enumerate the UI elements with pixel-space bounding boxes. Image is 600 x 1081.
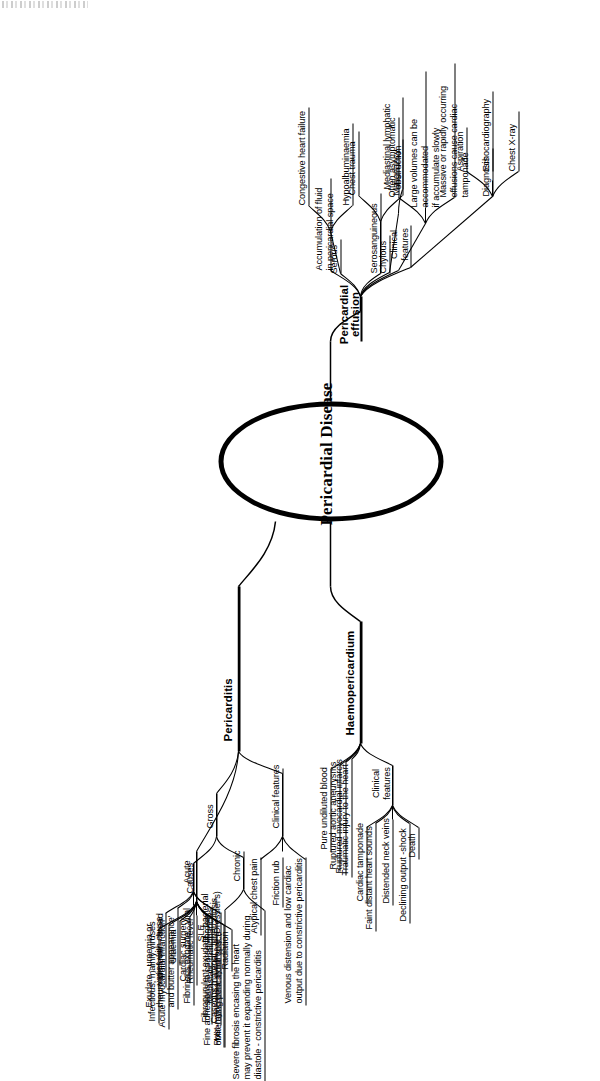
node-chylous[interactable]: Chylous [377,241,388,274]
effusion-clinical-item-3: Massive or rapidly occurring effusions c… [437,63,470,197]
underline-chronic [243,851,244,889]
underline-chylous-1 [402,97,403,189]
underline-diagnosis-2 [492,91,493,171]
underline-causes [196,851,197,901]
effusion-acc-line1: Accumulation of fluid [313,187,323,270]
underline-serous-1 [308,107,309,205]
underline-haemo-clinical [392,765,393,805]
effusion-label-line2: effusion [348,291,360,336]
underline-diagnosis-3 [518,111,519,171]
node-acute[interactable]: Acute [181,860,192,883]
chronic-2-line3: diastole - constrictive pericarditis [252,950,262,1079]
serosanguineous-item-1: Chest trauma [346,141,357,195]
ec-3-line1: Massive or rapidly occurring [437,85,447,197]
underline-acute [193,863,194,891]
underline-gross [216,793,217,836]
underline-haemopericardium [360,621,362,743]
underline-ec-2 [425,71,426,207]
haemo-clinical-line1: Clinical [370,769,380,798]
underline-ec-1 [398,117,399,197]
node-serous[interactable]: Serous [328,244,339,273]
pc-3-line2: output due to constrictive pericarditis [293,858,303,1003]
underline-effusion-clinical [410,225,411,267]
chronic-2-line1: Severe fibrosis encasing the heart [230,943,240,1079]
underline-acute-3 [193,905,194,1005]
centre-label: Pericardial Disease [320,397,331,525]
underline-acute-2 [177,908,178,1009]
pc-3-line1: Venous distension and low cardiac [282,865,292,1003]
acute-2-line2: rheumatic fever - 'bread [154,913,164,1007]
node-haemo-clinical[interactable]: Clinical features [370,761,392,805]
underline-pc-3 [305,857,306,1005]
underline-hc-2 [375,823,376,931]
serous-item-1: Congestive heart failure [296,110,307,205]
underline-hc-3 [392,819,393,905]
underline-ss-1 [358,131,359,195]
underline-pericarditis-clinical [282,768,283,836]
node-gross[interactable]: Gross [204,804,215,828]
branch-haemopericardium[interactable]: Haemopericardium [344,630,355,735]
chronic-item-1: Fine adhesions to coarse fibrosis oblite… [201,909,223,1045]
haemo-clinical-line2: features [381,767,391,799]
underline-chronic-1 [224,910,225,1047]
diagnosis-item-3: Chest X-ray [506,124,517,171]
chronic-1-line1: Fine adhesions to coarse fibrosis [201,914,211,1045]
pericarditis-clinical-item-2: Friction rub [270,860,281,905]
node-effusion-clinical[interactable]: Clinical features [388,221,410,267]
acute-item-3: Fibrinous exudate - viral [181,907,192,1003]
underline-diagnosis-1 [466,127,467,171]
underline-hc-5 [418,827,419,859]
pericarditis-clinical-item-1: Atypical chest pain [248,858,259,933]
haemo-clinical-item-5: Death [406,833,417,857]
haemo-clinical-item-2: Faint distant heart sounds [363,826,374,929]
diagnosis-item-2: Echocardiography [480,99,491,171]
underline-pc-1 [260,857,261,935]
underline-haemo-4 [351,759,352,877]
branch-pericardial-effusion[interactable]: Pericardial effusion [338,271,360,357]
pericarditis-clinical-item-3: Venous distension and low cardiac output… [282,855,304,1003]
underline-pericarditis [238,586,240,751]
acute-item-2: Exudate - uraemia or rheumatic fever - '… [143,903,176,1007]
effusion-clinical-item-2: Large volumes can be accommodated if acc… [408,71,441,207]
effusion-label-line1: Pericardial [337,284,349,343]
effusion-clinical-line2: features [399,228,409,260]
branch-pericarditis[interactable]: Pericarditis [222,678,233,741]
underline-chronic-2 [264,910,265,1081]
underline-serous [340,239,341,273]
haemo-clinical-item-3: Distended neck veins [380,818,391,903]
node-pericarditis-clinical[interactable]: Clinical features [270,764,281,828]
acute-2-line3: and butter appearance' [165,915,175,1007]
chronic-2-line2: may prevent it expanding normally during [241,915,251,1079]
diagnosis-item-1: Aspiration [454,131,465,171]
chronic-item-2: Severe fibrosis encasing the heart may p… [230,909,263,1079]
node-chronic[interactable]: Chronic [231,850,242,881]
effusion-clinical-line1: Clinical [388,230,398,259]
acute-2-line1: Exudate - uraemia or [143,923,153,1007]
underline-ec-3 [454,63,455,197]
effusion-clinical-item-1: Often asymptomatic [386,117,397,197]
underline-pericardial-effusion [360,296,362,341]
haemo-item-4: Traumatic injury to the heart [339,764,350,875]
chronic-1-line2: obliterating pericardial space [212,931,222,1045]
